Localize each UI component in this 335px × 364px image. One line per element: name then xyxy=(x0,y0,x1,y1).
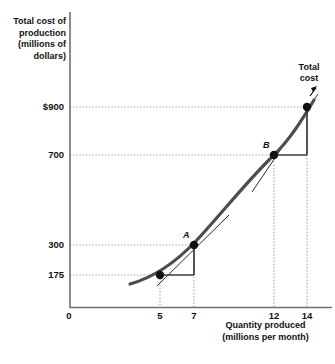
curve-label-line1: Total xyxy=(299,62,320,72)
y-axis-title: Total cost ofproduction(millions ofdolla… xyxy=(0,16,66,62)
x-tick-label-12: 12 xyxy=(264,310,284,321)
x-axis-title: Quantity produced(millions per month) xyxy=(196,320,335,343)
data-point-5-175 xyxy=(156,271,164,279)
y-axis-title-line1: Total cost of xyxy=(13,16,66,26)
origin-label: 0 xyxy=(59,310,79,321)
y-tick-label-300: 300 xyxy=(26,239,64,250)
gridlines-group xyxy=(70,107,307,307)
x-axis-title-line2: (millions per month) xyxy=(222,332,309,342)
x-tick-label-14: 14 xyxy=(297,310,317,321)
y-axis-title-line2: production xyxy=(19,28,66,38)
y-tick-label-700: 700 xyxy=(26,149,64,160)
y-axis-title-line4: dollars) xyxy=(33,51,66,61)
curve-label-total-cost: Totalcost xyxy=(286,62,332,84)
data-point-markers xyxy=(156,103,311,279)
axes-group xyxy=(70,12,332,308)
point-label-b: B xyxy=(263,140,270,151)
x-axis-title-line1: Quantity produced xyxy=(225,320,305,330)
data-point-b xyxy=(270,151,278,159)
y-axis-title-line3: (millions of xyxy=(18,39,66,49)
chart-figure: Total cost ofproduction(millions ofdolla… xyxy=(0,0,335,364)
x-tick-label-7: 7 xyxy=(184,310,204,321)
data-point-a xyxy=(190,241,198,249)
y-tick-label-175: 175 xyxy=(26,269,64,280)
point-label-a: A xyxy=(183,230,190,241)
curve-label-pointer xyxy=(310,86,317,96)
y-tick-label-900: $900 xyxy=(26,101,64,112)
x-tick-label-5: 5 xyxy=(150,310,170,321)
data-point-14-900 xyxy=(303,103,311,111)
total-cost-curve xyxy=(130,100,314,284)
curve-label-line2: cost xyxy=(300,73,319,83)
